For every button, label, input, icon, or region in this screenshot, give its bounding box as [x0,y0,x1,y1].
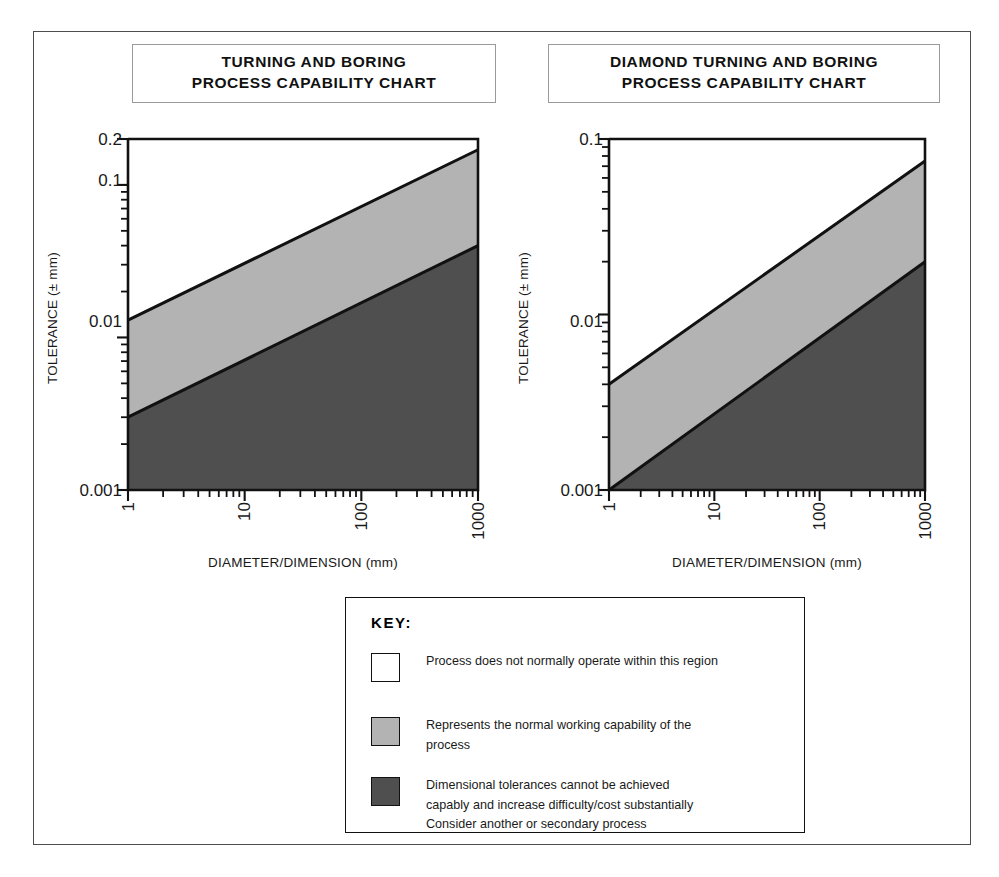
key-entry-text: Represents the normal working capability… [426,716,691,755]
y-tick-label: 0.01 [570,312,603,331]
x-tick-label: 1 [600,502,619,511]
key-entry-text: Dimensional tolerances cannot be achieve… [426,776,693,835]
key-entry-dark-gray: Dimensional tolerances cannot be achieve… [371,776,693,835]
key-entry-text: Process does not normally operate within… [426,652,718,672]
y-tick-label: 0.001 [560,481,603,500]
chart-right-plot: 0.1 0.01 0.001 1 10 100 1000 TOLERANCE (… [0,0,999,600]
figure-page: TURNING AND BORING PROCESS CAPABILITY CH… [0,0,999,877]
key-title: KEY: [371,614,412,631]
x-axis-ticks-right [609,490,925,501]
x-tick-label: 100 [810,502,829,530]
right-chart-group: 0.1 0.01 0.001 1 10 100 1000 TOLERANCE (… [516,130,935,570]
x-tick-label: 1000 [916,502,935,540]
key-swatch-dark-gray-icon [371,777,400,806]
x-axis-label-right: DIAMETER/DIMENSION (mm) [672,555,862,570]
y-tick-label: 0.1 [579,130,603,149]
key-swatch-light-gray-icon [371,717,400,746]
y-axis-label-right: TOLERANCE (± mm) [516,252,531,384]
key-legend-box: KEY: Process does not normally operate w… [345,597,805,833]
key-swatch-white-icon [371,653,400,682]
key-entry-white: Process does not normally operate within… [371,652,718,682]
x-tick-label: 10 [705,502,724,521]
key-entry-light-gray: Represents the normal working capability… [371,716,691,755]
